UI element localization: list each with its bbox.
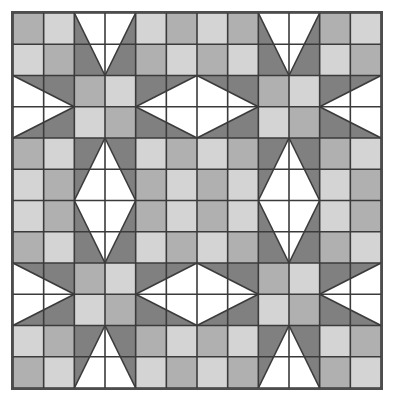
top-right-block-corner-2-cell-00 (197, 138, 228, 169)
top-left-block-corner-2-cell-10 (13, 169, 44, 200)
top-right-block-corner-0-cell-11 (228, 44, 259, 75)
bottom-left-block-corner-0-cell-10 (13, 232, 44, 263)
bottom-right-block-corner-2-cell-00 (197, 326, 228, 357)
top-left-block-center-cell-01 (105, 76, 136, 107)
bottom-left-block-corner-3-cell-01 (166, 326, 197, 357)
bottom-left-block-center-cell-11 (105, 294, 136, 325)
top-right-block-corner-3-cell-00 (320, 138, 351, 169)
bottom-right-block-center-cell-00 (258, 263, 289, 294)
bottom-left-block-corner-1-cell-01 (166, 201, 197, 232)
top-right-block-corner-3-cell-10 (320, 169, 351, 200)
bottom-left-block-corner-0-cell-01 (44, 201, 75, 232)
top-left-block-corner-3-cell-01 (166, 138, 197, 169)
bottom-right-block-corner-1-cell-10 (320, 232, 351, 263)
bottom-right-block-corner-2-cell-10 (197, 357, 228, 388)
top-left-block-corner-0-cell-10 (13, 44, 44, 75)
bottom-right-block-corner-1-cell-11 (350, 232, 381, 263)
top-right-block-corner-2-cell-10 (197, 169, 228, 200)
top-right-block-center-cell-00 (258, 76, 289, 107)
bottom-right-block-corner-3-cell-10 (320, 357, 351, 388)
top-left-block-center-cell-00 (74, 76, 105, 107)
top-left-block-corner-0-cell-00 (13, 13, 44, 44)
top-right-block-corner-3-cell-11 (350, 169, 381, 200)
top-right-block-corner-0-cell-01 (228, 13, 259, 44)
quilt-canvas (13, 13, 381, 388)
bottom-left-block-corner-2-cell-11 (44, 357, 75, 388)
bottom-right-block-corner-1-cell-01 (350, 201, 381, 232)
top-right-block-corner-1-cell-11 (350, 44, 381, 75)
bottom-right-block-corner-3-cell-01 (350, 326, 381, 357)
top-right-block-corner-1-cell-00 (320, 13, 351, 44)
bottom-left-block-corner-3-cell-00 (136, 326, 167, 357)
top-left-block-corner-1-cell-10 (136, 44, 167, 75)
top-left-block-corner-1-cell-00 (136, 13, 167, 44)
top-right-block-corner-2-cell-01 (228, 138, 259, 169)
bottom-right-block-corner-2-cell-11 (228, 357, 259, 388)
top-left-block-corner-2-cell-00 (13, 138, 44, 169)
bottom-left-block-center-cell-01 (105, 263, 136, 294)
top-left-block-center-cell-11 (105, 107, 136, 138)
bottom-left-block-center-cell-10 (74, 294, 105, 325)
top-right-block-corner-0-cell-00 (197, 13, 228, 44)
quilt-frame (11, 11, 383, 390)
top-left-block-corner-3-cell-00 (136, 138, 167, 169)
bottom-left-block-corner-2-cell-10 (13, 357, 44, 388)
bottom-right-block-corner-1-cell-00 (320, 201, 351, 232)
bottom-left-block-corner-1-cell-11 (166, 232, 197, 263)
bottom-right-block-corner-0-cell-10 (197, 232, 228, 263)
bottom-left-block-corner-2-cell-01 (44, 326, 75, 357)
top-left-block-center-cell-10 (74, 107, 105, 138)
bottom-left-block-corner-0-cell-00 (13, 201, 44, 232)
top-left-block-corner-2-cell-01 (44, 138, 75, 169)
top-right-block-corner-1-cell-10 (320, 44, 351, 75)
bottom-right-block-corner-0-cell-11 (228, 232, 259, 263)
bottom-left-block-corner-1-cell-10 (136, 232, 167, 263)
top-right-block-center-cell-01 (289, 76, 320, 107)
bottom-right-block-corner-0-cell-01 (228, 201, 259, 232)
bottom-left-block-corner-0-cell-11 (44, 232, 75, 263)
bottom-right-block-corner-3-cell-11 (350, 357, 381, 388)
bottom-left-block-corner-2-cell-00 (13, 326, 44, 357)
bottom-left-block-center-cell-00 (74, 263, 105, 294)
bottom-right-block-center-cell-10 (258, 294, 289, 325)
top-left-block-corner-0-cell-11 (44, 44, 75, 75)
bottom-right-block-corner-2-cell-01 (228, 326, 259, 357)
bottom-left-block-corner-1-cell-00 (136, 201, 167, 232)
bottom-right-block-corner-3-cell-00 (320, 326, 351, 357)
top-left-block-corner-0-cell-01 (44, 13, 75, 44)
top-right-block-center-cell-10 (258, 107, 289, 138)
top-left-block-corner-1-cell-11 (166, 44, 197, 75)
top-right-block-corner-0-cell-10 (197, 44, 228, 75)
top-right-block-center-cell-11 (289, 107, 320, 138)
top-left-block-corner-3-cell-10 (136, 169, 167, 200)
top-right-block-corner-3-cell-01 (350, 138, 381, 169)
bottom-right-block-center-cell-01 (289, 263, 320, 294)
top-left-block-corner-1-cell-01 (166, 13, 197, 44)
top-left-block-corner-3-cell-11 (166, 169, 197, 200)
top-right-block-corner-2-cell-11 (228, 169, 259, 200)
top-right-block-corner-1-cell-01 (350, 13, 381, 44)
top-left-block-corner-2-cell-11 (44, 169, 75, 200)
bottom-right-block-corner-0-cell-00 (197, 201, 228, 232)
bottom-left-block-corner-3-cell-10 (136, 357, 167, 388)
quilt-page (0, 0, 401, 409)
bottom-left-block-corner-3-cell-11 (166, 357, 197, 388)
bottom-right-block-center-cell-11 (289, 294, 320, 325)
